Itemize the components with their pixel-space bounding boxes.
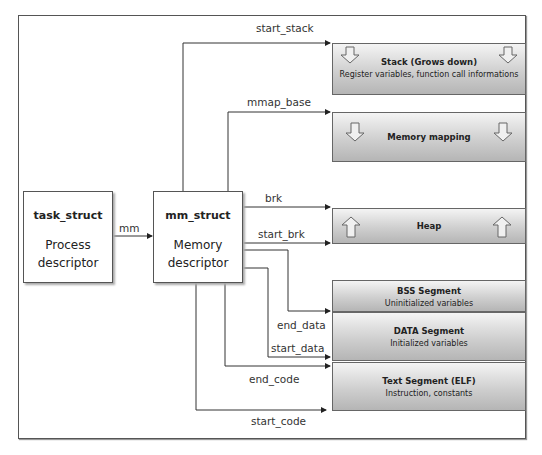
mm-struct-title: mm_struct xyxy=(154,209,242,222)
label-start-code: start_code xyxy=(251,415,306,427)
segment-text-title: Text Segment (ELF) xyxy=(333,376,525,386)
task-struct-title: task_struct xyxy=(24,209,112,222)
segment-heap: Heap xyxy=(332,208,526,244)
task-struct-box: task_struct Process descriptor xyxy=(23,191,113,283)
segment-text-subtitle: Instruction, constants xyxy=(333,389,525,398)
down-arrow-icon xyxy=(344,122,366,142)
label-start-stack: start_stack xyxy=(256,22,314,34)
segment-bss-title: BSS Segment xyxy=(333,286,525,296)
up-arrow-icon xyxy=(340,216,362,238)
segment-text: Text Segment (ELF) Instruction, constant… xyxy=(332,362,526,411)
label-start-data: start_data xyxy=(271,342,324,354)
down-arrow-icon xyxy=(339,46,361,64)
label-mmap-base: mmap_base xyxy=(247,96,311,108)
segment-data-subtitle: Initialized variables xyxy=(333,339,525,348)
down-arrow-icon xyxy=(497,46,519,64)
label-end-data: end_data xyxy=(277,319,326,331)
mm-struct-subtitle-1: Memory xyxy=(154,236,242,254)
segment-bss-subtitle: Uninitialized variables xyxy=(333,299,525,308)
label-start-brk: start_brk xyxy=(258,228,305,240)
mm-struct-subtitle-2: descriptor xyxy=(154,254,242,272)
label-end-code: end_code xyxy=(249,373,299,385)
segment-bss: BSS Segment Uninitialized variables xyxy=(332,280,526,312)
segment-data: DATA Segment Initialized variables xyxy=(332,312,526,361)
label-brk: brk xyxy=(265,192,282,204)
down-arrow-icon xyxy=(492,122,514,142)
segment-stack: Stack (Grows down) Register variables, f… xyxy=(332,43,526,95)
segment-memory-mapping: Memory mapping xyxy=(332,112,526,162)
task-struct-subtitle-1: Process xyxy=(24,236,112,254)
task-struct-subtitle-2: descriptor xyxy=(24,254,112,272)
up-arrow-icon xyxy=(491,216,513,238)
segment-stack-subtitle: Register variables, function call inform… xyxy=(333,70,525,79)
mm-struct-box: mm_struct Memory descriptor xyxy=(153,191,243,283)
segment-data-title: DATA Segment xyxy=(333,326,525,336)
edge-label-mm: mm xyxy=(119,222,139,234)
